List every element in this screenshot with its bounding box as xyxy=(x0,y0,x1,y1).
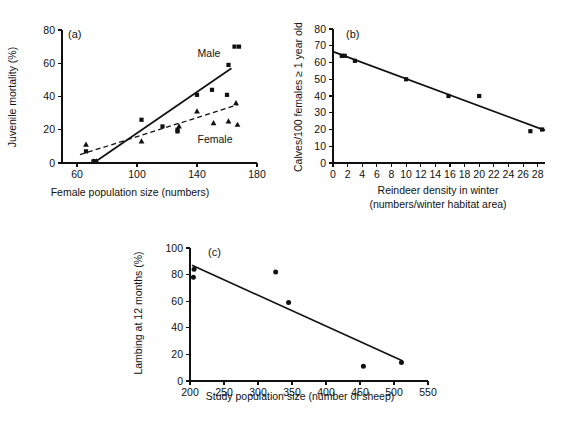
panel-a-y-tick-label: 0 xyxy=(49,157,55,169)
panel-a-point-male xyxy=(225,93,229,97)
panel-a-x-tick-label: 60 xyxy=(71,168,83,180)
panel-b-x-tick-label: 12 xyxy=(415,168,427,180)
panel-a-y-tick-label: 20 xyxy=(43,123,55,135)
panel-a-point-female xyxy=(139,138,145,143)
panel-c-xlabel: Study population size (number of sheep) xyxy=(206,390,395,402)
panel-a-point-female xyxy=(233,100,239,105)
panel-a-point-male xyxy=(226,63,230,67)
panel-c-x-tick-label: 200 xyxy=(181,386,199,398)
panel-a-point-female xyxy=(226,118,232,123)
panel-b: 0246810121416182022242628010203040506070… xyxy=(290,0,572,220)
panel-a-point-female xyxy=(211,120,217,125)
panel-b-y-tick-label: 20 xyxy=(314,123,326,135)
panel-b-x-tick-label: 0 xyxy=(330,168,336,180)
panel-c-point xyxy=(192,267,197,272)
panel-a-ylabel: Juvenile mortality (%) xyxy=(6,47,18,147)
panel-b-y-tick-label: 30 xyxy=(314,106,326,118)
panel-a-y-tick-label: 60 xyxy=(43,57,55,69)
panel-c-y-tick-label: 40 xyxy=(171,321,183,333)
panel-a-point-male xyxy=(195,93,199,97)
panel-c-point xyxy=(361,364,366,369)
panel-b-y-tick-label: 60 xyxy=(314,56,326,68)
panel-b-point xyxy=(404,77,408,81)
panel-c-y-tick-label: 80 xyxy=(171,268,183,280)
panel-c-ylabel: Lambing at 12 months (%) xyxy=(132,251,144,374)
panel-c-axes xyxy=(186,248,428,385)
panel-b-x-tick-label: 18 xyxy=(459,168,471,180)
panel-c-tag: (c) xyxy=(208,246,221,258)
panel-c-fit-line xyxy=(192,265,403,361)
panel-a-point-male xyxy=(210,88,214,92)
panel-c-x-tick-label: 550 xyxy=(419,386,437,398)
panel-a-x-tick-label: 140 xyxy=(188,168,206,180)
panel-a-point-female xyxy=(83,142,89,147)
panel-c-tick-labels: 200250300350400450500550020406080100 xyxy=(165,242,436,398)
panel-b-axes xyxy=(329,29,545,167)
panel-b-xlabel-line2: (numbers/winter habitat area) xyxy=(369,198,506,210)
panel-b-tag: (b) xyxy=(346,28,359,40)
panel-b-ylabel: Calves/100 females ≥ 1 year old xyxy=(292,22,304,172)
panel-a-x-tick-label: 180 xyxy=(248,168,266,180)
panel-b-fit-line xyxy=(333,52,545,131)
panel-b-point xyxy=(540,127,544,131)
panel-a-female-label: Female xyxy=(197,133,232,145)
panel-a-xlabel: Female population size (numbers) xyxy=(51,186,210,198)
panel-a-point-female xyxy=(235,122,241,127)
panel-c-point xyxy=(399,360,404,365)
panel-b-x-tick-label: 28 xyxy=(532,168,544,180)
panel-a-point-male xyxy=(232,45,236,49)
panel-a-tag: (a) xyxy=(68,28,81,40)
panel-c-point xyxy=(286,300,291,305)
panel-b-point xyxy=(446,94,450,98)
panel-b-x-tick-label: 22 xyxy=(488,168,500,180)
panel-b-point xyxy=(528,129,532,133)
panel-b-x-tick-label: 4 xyxy=(359,168,365,180)
panel-b-point xyxy=(343,54,347,58)
panel-c-plot: 200250300350400450500550020406080100 (c)… xyxy=(100,218,480,425)
panel-b-data xyxy=(333,52,545,134)
panel-b-x-tick-label: 16 xyxy=(444,168,456,180)
panel-b-y-tick-label: 10 xyxy=(314,140,326,152)
panel-c-y-tick-label: 0 xyxy=(177,375,183,387)
panel-b-x-tick-label: 14 xyxy=(430,168,442,180)
panel-b-x-tick-label: 8 xyxy=(389,168,395,180)
panel-c-y-tick-label: 60 xyxy=(171,295,183,307)
panel-a-fit-male xyxy=(94,68,232,163)
panel-b-point xyxy=(353,59,357,63)
panel-c-point xyxy=(273,269,278,274)
panel-b-plot: 0246810121416182022242628010203040506070… xyxy=(290,0,572,220)
panel-a-fit-female xyxy=(80,105,238,155)
panel-c-y-tick-label: 20 xyxy=(171,348,183,360)
panel-a-point-male xyxy=(139,118,143,122)
panel-b-x-tick-label: 2 xyxy=(345,168,351,180)
panel-b-xlabel-line1: Reindeer density in winter xyxy=(378,184,499,196)
panel-c-y-tick-label: 100 xyxy=(165,242,183,254)
panel-c-data xyxy=(191,265,404,369)
panel-b-tick-labels: 0246810121416182022242628010203040506070… xyxy=(314,23,543,180)
panel-b-x-tick-label: 10 xyxy=(400,168,412,180)
panel-b-x-tick-label: 26 xyxy=(517,168,529,180)
panel-a-data xyxy=(80,45,241,164)
panel-a-x-tick-label: 100 xyxy=(128,168,146,180)
panel-a-plot: 60100140180020406080 (a) Female populati… xyxy=(0,0,290,220)
panel-b-point xyxy=(477,94,481,98)
panel-a-male-label: Male xyxy=(198,47,221,59)
panel-a-point-male xyxy=(237,45,241,49)
panel-c-point xyxy=(191,275,196,280)
panel-b-y-tick-label: 50 xyxy=(314,73,326,85)
panel-b-x-tick-label: 6 xyxy=(374,168,380,180)
panel-b-y-tick-label: 0 xyxy=(320,157,326,169)
panel-b-y-tick-label: 70 xyxy=(314,39,326,51)
panel-c: 200250300350400450500550020406080100 (c)… xyxy=(100,218,480,425)
panel-b-y-tick-label: 40 xyxy=(314,90,326,102)
panel-b-x-tick-label: 20 xyxy=(473,168,485,180)
panel-a: 60100140180020406080 (a) Female populati… xyxy=(0,0,290,220)
panel-a-y-tick-label: 80 xyxy=(43,24,55,36)
panel-b-y-tick-label: 80 xyxy=(314,23,326,35)
panel-a-point-male xyxy=(175,129,179,133)
panel-a-y-tick-label: 40 xyxy=(43,90,55,102)
panel-a-point-female xyxy=(194,108,200,113)
figure-container: 60100140180020406080 (a) Female populati… xyxy=(0,0,572,425)
panel-b-x-tick-label: 24 xyxy=(503,168,515,180)
